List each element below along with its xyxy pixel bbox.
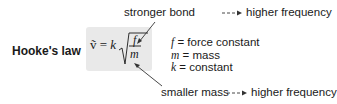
variable-definitions: f = force constant m = mass k = constant xyxy=(171,36,260,74)
higher-frequency-label-bottom: higher frequency xyxy=(251,86,337,98)
higher-frequency-label-top: higher frequency xyxy=(246,6,332,18)
dashed-arrow-icon xyxy=(237,11,242,16)
definition-k: k = constant xyxy=(171,61,260,74)
stronger-bond-label: stronger bond xyxy=(124,6,195,18)
smaller-mass-label: smaller mass xyxy=(161,86,229,98)
dashed-arrow-icon xyxy=(242,91,247,96)
sqrt-sign-icon xyxy=(119,33,148,64)
definition-m: m = mass xyxy=(171,49,260,62)
definition-f: f = force constant xyxy=(171,36,260,49)
